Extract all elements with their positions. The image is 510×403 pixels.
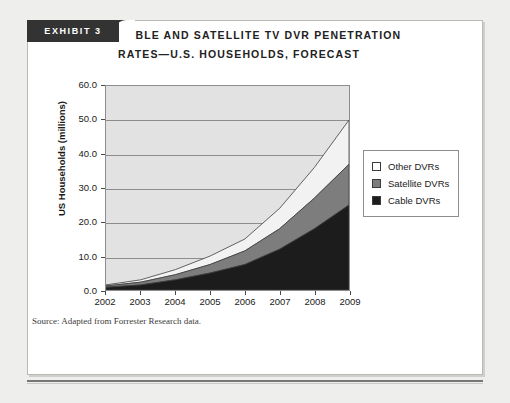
legend-item-label: Satellite DVRs [388,178,449,189]
y-axis-tick-label: 60.0 [53,79,97,90]
exhibit-page: EXHIBIT 3 CABLE AND SATELLITE TV DVR PEN… [0,0,510,403]
x-axis-tick-mark [315,291,316,295]
legend-item[interactable]: Satellite DVRs [372,175,449,192]
x-axis-tick-mark [140,291,141,295]
x-axis-tick-label: 2008 [298,296,332,307]
x-axis-tick-mark [175,291,176,295]
stacked-area-series [106,86,349,290]
legend-item-label: Cable DVRs [388,195,440,206]
x-axis-tick-label: 2007 [263,296,297,307]
x-axis-tick-label: 2002 [88,296,122,307]
footer-rule-shadow [27,383,483,384]
legend-swatch-icon [372,179,381,188]
y-axis-tick-label: 30.0 [53,182,97,193]
x-axis-tick-label: 2009 [333,296,367,307]
x-axis-tick-label: 2005 [193,296,227,307]
source-note: Source: Adapted from Forrester Research … [32,316,201,326]
chart-legend: Other DVRsSatellite DVRsCable DVRs [363,150,459,217]
x-axis-tick-mark [280,291,281,295]
legend-item[interactable]: Cable DVRs [372,192,449,209]
legend-item-label: Other DVRs [388,161,439,172]
exhibit-label: EXHIBIT 3 [27,20,119,42]
y-axis-tick-label: 20.0 [53,216,97,227]
y-axis-tick-label: 40.0 [53,148,97,159]
footer-rule [27,380,483,382]
x-axis-tick-label: 2003 [123,296,157,307]
legend-swatch-icon [372,196,381,205]
y-axis-tick-label: 50.0 [53,113,97,124]
x-axis-tick-mark [105,291,106,295]
x-axis-tick-label: 2006 [228,296,262,307]
y-axis-tick-label: 0.0 [53,285,97,296]
x-axis-tick-label: 2004 [158,296,192,307]
x-axis-tick-mark [210,291,211,295]
y-axis-tick-label: 10.0 [53,251,97,262]
legend-item[interactable]: Other DVRs [372,158,449,175]
plot-region [105,85,350,291]
legend-swatch-icon [372,162,381,171]
x-axis-tick-mark [350,291,351,295]
x-axis-tick-mark [245,291,246,295]
